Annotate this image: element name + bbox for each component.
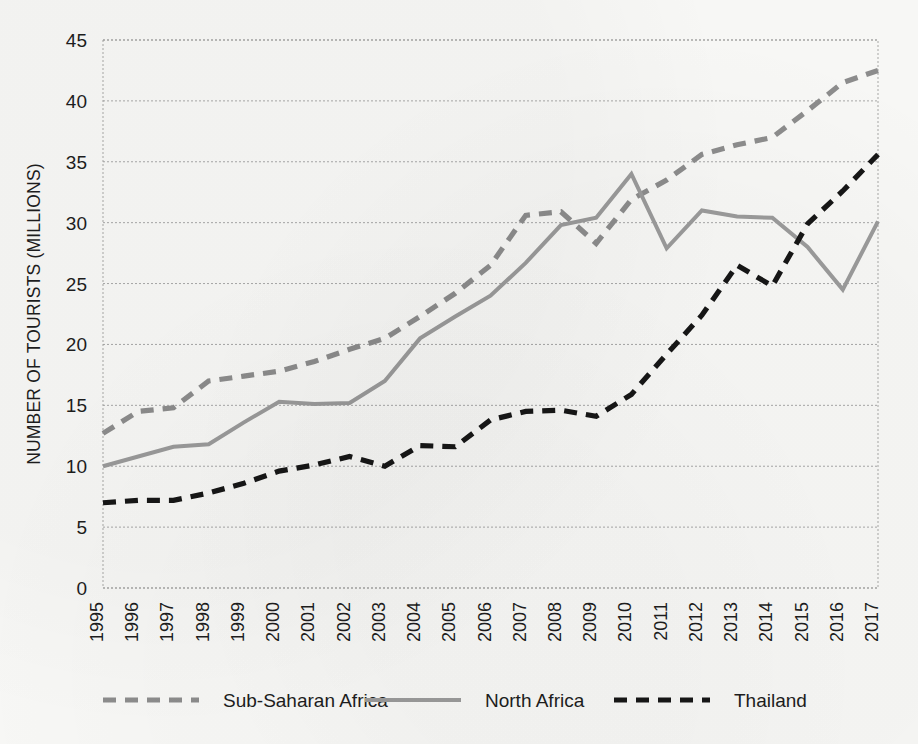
x-tick-label: 2015 — [792, 602, 812, 642]
y-tick-label: 15 — [66, 395, 87, 416]
x-tick-label: 2004 — [404, 602, 424, 642]
y-tick-label: 10 — [66, 456, 87, 477]
x-tick-label: 1997 — [157, 602, 177, 642]
x-tick-label: 2017 — [862, 602, 882, 642]
y-axis-title-text: NUMBER OF TOURISTS (MILLIONS) — [24, 163, 44, 465]
x-tick-label: 2009 — [580, 602, 600, 642]
y-tick-label: 20 — [66, 334, 87, 355]
y-tick-label: 40 — [66, 91, 87, 112]
y-tick-label: 25 — [66, 274, 87, 295]
x-axis-tick-labels: 1995199619971998199920002001200220032004… — [87, 602, 882, 642]
y-tick-label: 0 — [76, 578, 87, 599]
y-tick-label: 5 — [76, 517, 87, 538]
y-tick-label: 35 — [66, 152, 87, 173]
y-axis-title: NUMBER OF TOURISTS (MILLIONS) — [24, 163, 44, 465]
x-tick-label: 1995 — [87, 602, 107, 642]
x-tick-label: 2013 — [721, 602, 741, 642]
x-tick-label: 2007 — [510, 602, 530, 642]
x-tick-label: 1996 — [122, 602, 142, 642]
y-tick-label: 30 — [66, 213, 87, 234]
x-tick-label: 2012 — [686, 602, 706, 642]
chart-page: 051015202530354045 199519961997199819992… — [0, 0, 918, 744]
x-tick-label: 2010 — [615, 602, 635, 642]
x-tick-label: 2003 — [369, 602, 389, 642]
y-tick-label: 45 — [66, 30, 87, 51]
x-tick-label: 2002 — [334, 602, 354, 642]
x-tick-label: 2005 — [439, 602, 459, 642]
x-tick-label: 2011 — [651, 602, 671, 641]
x-tick-label: 2006 — [475, 602, 495, 642]
x-tick-label: 1999 — [228, 602, 248, 642]
legend-label: Thailand — [734, 690, 807, 711]
x-tick-label: 1998 — [193, 602, 213, 642]
legend-label: Sub-Saharan Africa — [223, 690, 388, 711]
line-chart: 051015202530354045 199519961997199819992… — [0, 0, 918, 744]
legend-label: North Africa — [485, 690, 585, 711]
x-tick-label: 2008 — [545, 602, 565, 642]
x-tick-label: 2001 — [298, 602, 318, 642]
x-tick-label: 2000 — [263, 602, 283, 642]
x-tick-label: 2016 — [827, 602, 847, 642]
x-tick-label: 2014 — [756, 602, 776, 642]
